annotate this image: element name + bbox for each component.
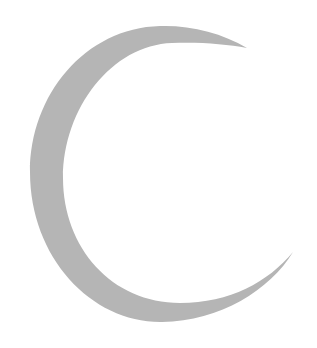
- crescent-shape: [30, 26, 293, 322]
- canvas: [0, 0, 317, 348]
- crescent-moon-icon: [0, 0, 317, 348]
